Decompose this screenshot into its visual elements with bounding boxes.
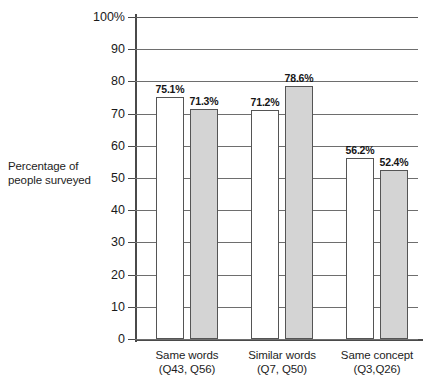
x-axis-category-label-1: Similar words(Q7, Q50) (248, 348, 316, 376)
category-label-line-2: (Q43, Q56) (156, 362, 219, 376)
plot-area: 0102030405060708090100%75.1%71.3%71.2%78… (135, 17, 418, 339)
y-axis-tick-label-40: 40 (111, 203, 125, 217)
y-axis-tick-80 (128, 81, 135, 82)
bar-value-label-2-1: 52.4% (380, 156, 409, 168)
y-axis-tick-90 (128, 49, 135, 50)
y-axis-tick-label-30: 30 (111, 235, 125, 249)
bar-0-0 (156, 97, 184, 339)
bar-value-label-1-0: 71.2% (251, 96, 280, 108)
gridline-0 (135, 339, 418, 340)
bar-chart: Percentage of people surveyed 0102030405… (0, 0, 428, 389)
bar-2-1 (380, 170, 408, 339)
category-label-line-1: Same concept (341, 348, 413, 362)
bar-1-0 (251, 110, 279, 339)
y-axis-tick-label-80: 80 (111, 74, 125, 88)
y-axis-tick-20 (128, 275, 135, 276)
x-axis-category-label-0: Same words(Q43, Q56) (156, 348, 219, 376)
y-axis-tick-30 (128, 242, 135, 243)
y-axis-tick-label-10: 10 (111, 300, 125, 314)
bar-value-label-0-1: 71.3% (190, 95, 219, 107)
category-label-line-1: Same words (156, 348, 219, 362)
y-axis-tick-0 (128, 339, 135, 340)
y-axis-title: Percentage of people surveyed (8, 160, 112, 187)
gridline-90 (135, 49, 418, 50)
y-axis-tick-label-0: 0 (118, 332, 125, 346)
y-axis-tick-100 (128, 17, 135, 18)
y-axis-tick-label-70: 70 (111, 107, 125, 121)
category-label-line-2: (Q7, Q50) (248, 362, 316, 376)
bar-0-1 (190, 109, 218, 339)
bar-value-label-2-0: 56.2% (346, 144, 375, 156)
y-axis-tick-label-60: 60 (111, 139, 125, 153)
y-axis-tick-60 (128, 146, 135, 147)
y-axis-tick-10 (128, 307, 135, 308)
bar-1-1 (285, 86, 313, 339)
y-axis-tick-label-100: 100% (93, 10, 125, 24)
category-label-line-1: Similar words (248, 348, 316, 362)
x-axis-category-label-2: Same concept(Q3,Q26) (341, 348, 413, 376)
category-label-line-2: (Q3,Q26) (341, 362, 413, 376)
bar-2-0 (346, 158, 374, 339)
y-axis-title-line-1: Percentage of (8, 160, 112, 174)
y-axis-tick-40 (128, 210, 135, 211)
y-axis-tick-70 (128, 114, 135, 115)
y-axis-tick-label-20: 20 (111, 268, 125, 282)
bar-value-label-0-0: 75.1% (156, 83, 185, 95)
y-axis-tick-50 (128, 178, 135, 179)
gridline-100 (135, 17, 418, 18)
y-axis-tick-label-50: 50 (111, 171, 125, 185)
y-axis-tick-label-90: 90 (111, 42, 125, 56)
bar-value-label-1-1: 78.6% (285, 72, 314, 84)
y-axis-title-line-2: people surveyed (8, 174, 112, 188)
